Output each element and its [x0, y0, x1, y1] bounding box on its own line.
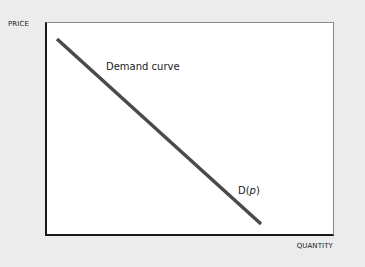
- demand-function-label: D(p): [238, 185, 260, 196]
- demand-curve-label: Demand curve: [106, 61, 180, 72]
- demand-curve: [0, 0, 365, 267]
